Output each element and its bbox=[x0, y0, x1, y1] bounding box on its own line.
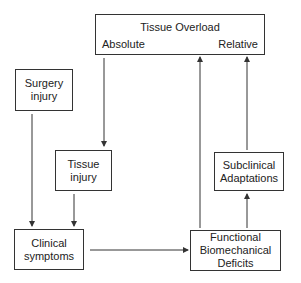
node-line: Tissue bbox=[68, 158, 100, 171]
node-line: symptoms bbox=[24, 250, 74, 263]
node-tissue-injury: Tissue injury bbox=[55, 150, 112, 191]
node-line: Subclinical bbox=[223, 159, 276, 172]
label-relative: Relative bbox=[218, 38, 258, 51]
node-line: Adaptations bbox=[220, 172, 278, 185]
node-line: Surgery bbox=[25, 77, 64, 90]
node-subclinical-adaptations: Subclinical Adaptations bbox=[214, 152, 284, 191]
diagram-canvas: Tissue Overload Absolute Relative Surger… bbox=[0, 0, 301, 283]
node-title: Tissue Overload bbox=[140, 21, 220, 34]
node-line: Functional bbox=[210, 231, 261, 244]
node-clinical-symptoms: Clinical symptoms bbox=[14, 229, 84, 270]
node-tissue-overload: Tissue Overload Absolute Relative bbox=[95, 14, 265, 55]
node-line: Clinical bbox=[31, 237, 66, 250]
node-functional-deficits: Functional Biomechanical Deficits bbox=[190, 230, 281, 271]
label-absolute: Absolute bbox=[102, 38, 145, 51]
node-line: injury bbox=[31, 90, 57, 103]
node-line: injury bbox=[70, 171, 96, 184]
overload-subtypes: Absolute Relative bbox=[96, 38, 264, 51]
node-surgery-injury: Surgery injury bbox=[15, 69, 73, 111]
node-line: Biomechanical bbox=[200, 244, 272, 257]
node-line: Deficits bbox=[217, 257, 253, 270]
